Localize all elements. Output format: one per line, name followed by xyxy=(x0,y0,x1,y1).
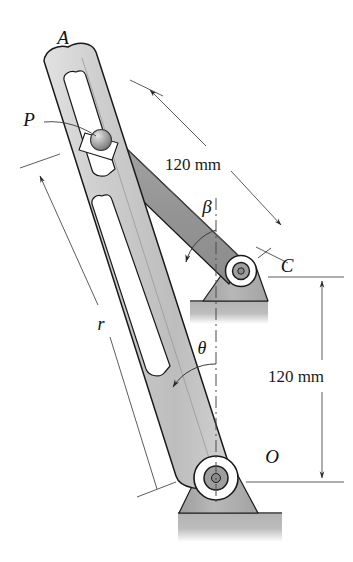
beta-label: β xyxy=(201,196,212,217)
pivot-separation-label: 120 mm xyxy=(268,367,324,386)
engineering-diagram: 120 mm 120 mm r β θ P A C O xyxy=(0,0,353,562)
ground-support-lower xyxy=(178,512,282,542)
point-o-label: O xyxy=(265,446,279,467)
theta-label: θ xyxy=(198,338,207,358)
leader-c: C xyxy=(258,248,294,276)
crank-length-label: 120 mm xyxy=(165,155,221,174)
point-a-label: A xyxy=(55,27,69,48)
point-c-label: C xyxy=(281,255,294,276)
point-p-label: P xyxy=(22,109,35,130)
ground-support-upper xyxy=(190,300,268,324)
radius-label: r xyxy=(97,314,105,334)
diagram-canvas: 120 mm 120 mm r β θ P A C O xyxy=(0,0,353,562)
slotted-arm-oa xyxy=(44,43,232,488)
pivot-c xyxy=(226,256,257,287)
